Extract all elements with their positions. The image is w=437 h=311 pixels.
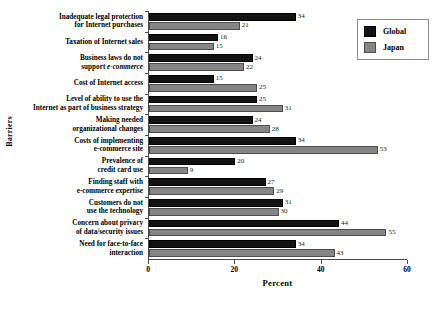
y-axis-tick: [145, 114, 149, 115]
bar-global: [149, 116, 253, 124]
y-axis-tick: [145, 52, 149, 53]
bar-global: [149, 13, 296, 21]
category-label-line: Taxation of Internet sales: [65, 38, 143, 47]
bar-group: 209: [149, 156, 408, 177]
bar-japan: [149, 22, 240, 30]
category-label: Cost of Internet access: [16, 73, 146, 94]
bar-global: [149, 75, 214, 83]
bar-row: 53: [149, 146, 408, 154]
legend: GlobalJapan: [357, 19, 429, 60]
legend-swatch-global: [364, 26, 376, 37]
category-label-line: Business laws do not: [80, 54, 143, 63]
bar-value-label: 25: [259, 96, 266, 103]
y-axis-tick: [145, 32, 149, 33]
category-label-line: use the technology: [87, 207, 143, 216]
category-label: Need for face-to-faceinteraction: [16, 238, 146, 259]
category-label-line: for Internet purchases: [75, 21, 143, 30]
y-axis-tick: [145, 135, 149, 136]
bar-value-label: 31: [285, 105, 292, 112]
bar-group: 3443: [149, 238, 408, 259]
category-label: Prevalence ofcredit card use: [16, 156, 146, 177]
category-label-line: credit card use: [98, 166, 143, 175]
bar-value-label: 9: [190, 167, 194, 174]
bar-value-label: 15: [216, 75, 223, 82]
bar-global: [149, 220, 339, 228]
x-axis-tick: [234, 260, 235, 264]
bar-group: 4455: [149, 218, 408, 239]
category-label-line: Internet as part of business strategy: [33, 104, 143, 113]
bar-value-label: 53: [380, 146, 387, 153]
category-label-line: Level of ability to use the: [66, 95, 143, 104]
legend-label: Global: [383, 27, 406, 36]
bar-row: 25: [149, 84, 408, 92]
bar-group: 1525: [149, 73, 408, 94]
category-label-line: Making needed: [96, 116, 143, 125]
category-label-line: of data/security issues: [76, 228, 143, 237]
legend-item-global[interactable]: Global: [364, 25, 422, 38]
category-label: Taxation of Internet sales: [16, 32, 146, 53]
bar-japan: [149, 229, 386, 237]
y-axis-tick: [145, 94, 149, 95]
legend-item-japan[interactable]: Japan: [364, 41, 422, 54]
x-axis-tick: [321, 260, 322, 264]
y-axis-tick: [145, 73, 149, 74]
bar-value-label: 22: [246, 64, 253, 71]
bar-row: 34: [149, 137, 408, 145]
bar-global: [149, 54, 253, 62]
x-axis-tick: [407, 260, 408, 264]
bar-value-label: 16: [220, 34, 227, 41]
bar-japan: [149, 208, 279, 216]
bar-value-label: 55: [388, 229, 395, 236]
bar-row: 25: [149, 96, 408, 104]
bar-value-label: 29: [276, 188, 283, 195]
legend-swatch-japan: [364, 42, 376, 53]
x-axis-tick: [148, 260, 149, 264]
bar-global: [149, 137, 296, 145]
bar-japan: [149, 63, 244, 71]
bar-group: 3130: [149, 197, 408, 218]
category-label-line: Customers do not: [89, 199, 143, 208]
bar-row: 20: [149, 158, 408, 166]
bar-row: 28: [149, 125, 408, 133]
bar-value-label: 27: [268, 179, 275, 186]
bar-value-label: 20: [237, 158, 244, 165]
category-label: Concern about privacyof data/security is…: [16, 218, 146, 239]
category-label-line: e-commerce site: [94, 145, 143, 154]
bar-row: 34: [149, 240, 408, 248]
category-label-line: Finding staff with: [88, 178, 143, 187]
bar-global: [149, 199, 283, 207]
bar-row: 55: [149, 229, 408, 237]
category-label-line: support e-commerce: [81, 63, 143, 72]
category-label: Inadequate legal protectionfor Internet …: [16, 11, 146, 32]
x-axis-tick-label: 40: [317, 265, 325, 274]
legend-label: Japan: [383, 43, 404, 52]
bar-value-label: 34: [298, 137, 305, 144]
bar-row: 43: [149, 249, 408, 257]
category-label-line: Need for face-to-face: [79, 240, 143, 249]
y-axis-tick: [145, 238, 149, 239]
y-axis-tick: [145, 197, 149, 198]
category-label-line: Inadequate legal protection: [59, 13, 143, 22]
x-axis-tick-label: 0: [146, 265, 150, 274]
y-axis-title: Barriers: [2, 0, 16, 262]
x-axis-tick-label: 20: [231, 265, 239, 274]
bar-row: 30: [149, 208, 408, 216]
bar-row: 22: [149, 63, 408, 71]
y-axis-tick: [145, 156, 149, 157]
bar-row: 24: [149, 116, 408, 124]
bar-value-label: 31: [285, 199, 292, 206]
bar-global: [149, 158, 235, 166]
bar-chart: Barriers Inadequate legal protectionfor …: [0, 0, 437, 311]
x-axis: 0204060: [148, 259, 407, 260]
bar-value-label: 21: [242, 22, 249, 29]
bar-value-label: 34: [298, 241, 305, 248]
bar-global: [149, 240, 296, 248]
category-label: Making neededorganizational changes: [16, 114, 146, 135]
category-label-line: e-commerce expertise: [77, 187, 143, 196]
bar-row: 29: [149, 187, 408, 195]
bar-value-label: 24: [255, 117, 262, 124]
category-label-line: Prevalence of: [102, 157, 143, 166]
category-label-line: Concern about privacy: [72, 219, 143, 228]
bar-group: 3453: [149, 135, 408, 156]
category-label-line: Cost of Internet access: [74, 79, 143, 88]
